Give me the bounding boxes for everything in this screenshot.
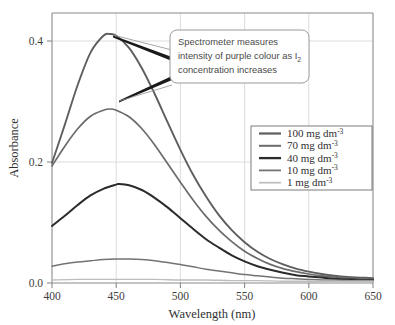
x-tick-label: 650: [364, 290, 382, 302]
x-tick-labels: 400 450 500 550 600 650: [43, 290, 382, 302]
x-tick-label: 600: [300, 290, 318, 302]
callout-line-1: Spectrometer measures: [178, 36, 278, 47]
callout-line-2: intensity of purple colour as I2: [178, 50, 301, 63]
legend-label-4: 1 mg dm-3: [287, 176, 333, 189]
spectrometer-callout: Spectrometer measures intensity of purpl…: [170, 30, 309, 83]
y-tick-marks: [47, 41, 52, 283]
y-tick-labels: 0.0 0.2 0.4: [29, 35, 44, 289]
callout-line-2-base: intensity of purple colour as I: [178, 50, 297, 61]
callout-line-3: concentration increases: [178, 64, 277, 75]
x-axis-title: Wavelength (nm): [169, 307, 256, 321]
x-tick-label: 550: [236, 290, 254, 302]
x-tick-label: 450: [108, 290, 126, 302]
y-tick-label: 0.2: [29, 156, 44, 168]
absorbance-spectrum-figure: 400 450 500 550 600 650 0.0 0.2 0.4 Wave…: [0, 0, 395, 325]
legend: 100 mg dm-370 mg dm-340 mg dm-310 mg dm-…: [251, 126, 372, 190]
callout-line-2-subscript: 2: [297, 56, 301, 63]
legend-label-1: 70 mg dm-3: [287, 139, 338, 152]
chart-svg: 400 450 500 550 600 650 0.0 0.2 0.4 Wave…: [0, 0, 395, 325]
legend-label-2: 40 mg dm-3: [287, 151, 338, 164]
x-tick-label: 500: [172, 290, 190, 302]
y-tick-label: 0.0: [29, 277, 44, 289]
x-tick-marks: [52, 283, 373, 288]
y-tick-label: 0.4: [29, 35, 44, 47]
y-axis-title: Absorbance: [7, 118, 21, 178]
legend-label-0: 100 mg dm-3: [287, 127, 344, 140]
legend-label-3: 10 mg dm-3: [287, 163, 338, 176]
x-tick-label: 400: [43, 290, 61, 302]
